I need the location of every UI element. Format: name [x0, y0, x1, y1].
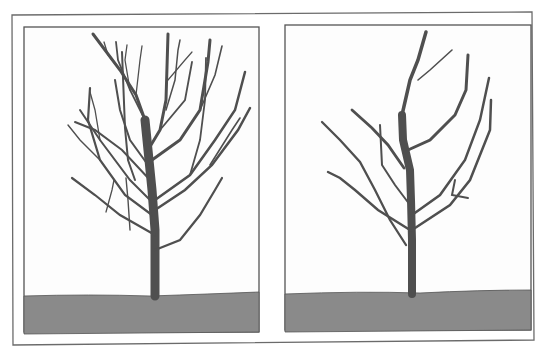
panel-before	[24, 27, 259, 334]
ground-right	[285, 290, 531, 332]
panel-before-frame	[24, 27, 259, 332]
panel-after	[285, 25, 531, 332]
ground-left	[24, 292, 259, 334]
pruning-diagram	[0, 0, 556, 354]
